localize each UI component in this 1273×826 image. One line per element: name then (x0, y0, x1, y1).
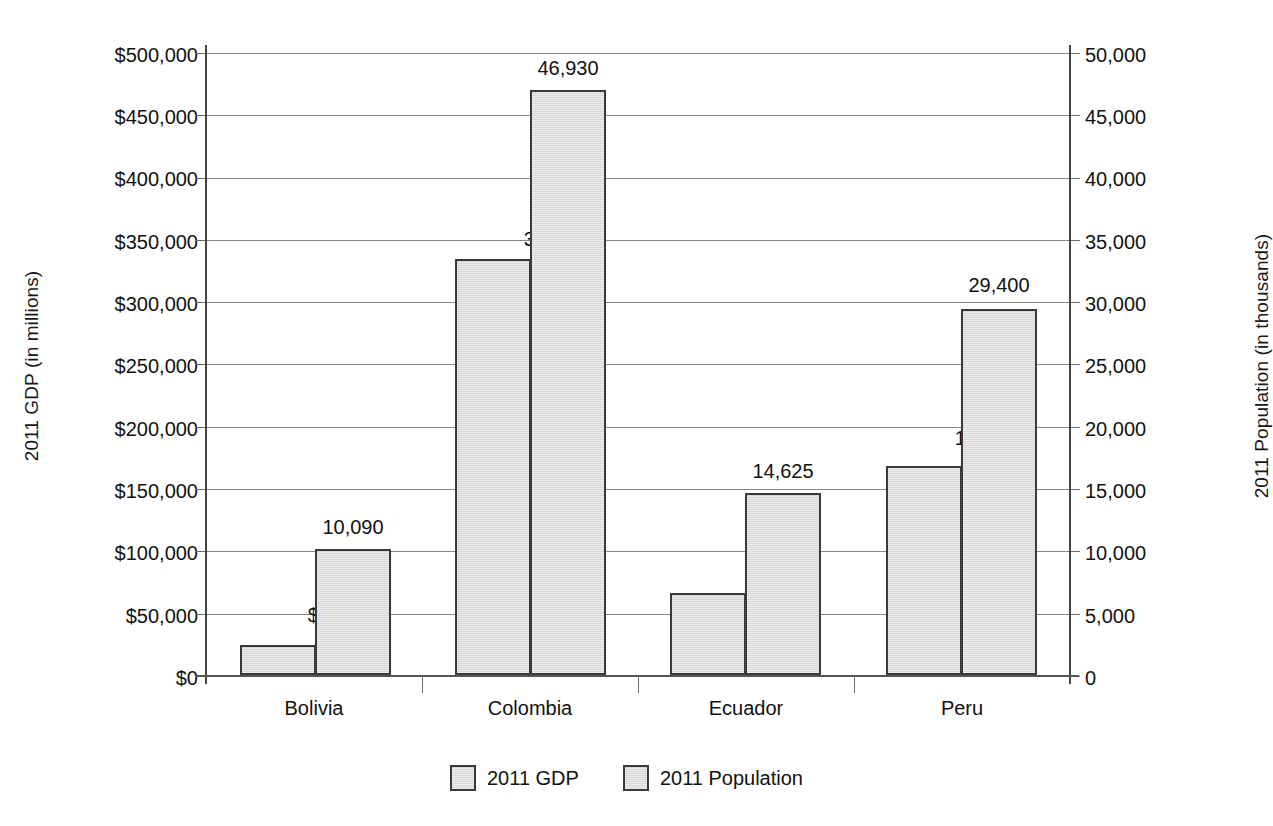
y-axis-left-tickmark (195, 53, 205, 54)
bar-label-population-peru: 29,400 (914, 275, 1084, 295)
y-axis-left-tickmark (195, 115, 205, 116)
legend-item-population[interactable]: 2011 Population (623, 765, 803, 791)
y-axis-left-tick-label: $450,000 (115, 107, 198, 127)
gridline (206, 364, 1070, 365)
y-axis-left-tick-label: $350,000 (115, 232, 198, 252)
bar-label-population-bolivia: 10,090 (268, 517, 438, 537)
gridline (206, 302, 1070, 303)
y-axis-left-tick-label: $500,000 (115, 45, 198, 65)
gridline (206, 53, 1070, 54)
y-axis-left-tick-label: $400,000 (115, 169, 198, 189)
y-axis-left-tick-label: $250,000 (115, 356, 198, 376)
y-axis-left-tickmark (195, 364, 205, 365)
y-axis-right-tick-label: 25,000 (1085, 356, 1146, 376)
x-axis-tickmark (422, 676, 423, 693)
legend-label: 2011 GDP (487, 767, 579, 790)
bar-label-population-ecuador: 14,625 (698, 461, 868, 481)
x-axis-category-label: Bolivia (206, 697, 422, 720)
y-axis-left-tick-label: $100,000 (115, 543, 198, 563)
bar-gdp-bolivia[interactable] (240, 645, 316, 675)
plot-area: $23,950 10,090 333,400 46,930 65,950 14,… (206, 53, 1070, 676)
y-axis-right-tickmark (1070, 614, 1080, 615)
bar-population-colombia[interactable] (530, 90, 606, 675)
y-axis-right-tick-label: 40,000 (1085, 169, 1146, 189)
y-axis-right-tickmark (1070, 178, 1080, 179)
y-axis-left-tick-label: $150,000 (115, 481, 198, 501)
y-axis-right-tickmark (1070, 364, 1080, 365)
y-axis-left-tick-label: $0 (176, 668, 198, 688)
y-axis-left-tickmark (195, 178, 205, 179)
legend-swatch-icon (450, 765, 476, 791)
x-axis-tickmark (854, 676, 855, 693)
legend-label: 2011 Population (660, 767, 803, 790)
legend-swatch-icon (623, 765, 649, 791)
x-axis-category-label: Peru (854, 697, 1070, 720)
bar-population-peru[interactable] (961, 309, 1037, 675)
y-axis-right-tick-label: 10,000 (1085, 543, 1146, 563)
y-axis-right-tickmark (1070, 427, 1080, 428)
y-axis-left-title: 2011 GDP (in millions) (21, 206, 43, 526)
gridline (206, 178, 1070, 179)
x-axis-category-label: Colombia (422, 697, 638, 720)
y-axis-right-tickmark (1070, 489, 1080, 490)
y-axis-right-tick-label: 50,000 (1085, 45, 1146, 65)
y-axis-left-tickmark (195, 240, 205, 241)
bar-gdp-ecuador[interactable] (670, 593, 746, 675)
y-axis-right-tickmark (1070, 115, 1080, 116)
y-axis-right-tick-label: 30,000 (1085, 294, 1146, 314)
y-axis-right-title: 2011 Population (in thousands) (1251, 166, 1273, 566)
y-axis-left-line (205, 45, 207, 684)
y-axis-left-tickmark (195, 489, 205, 490)
gridline (206, 240, 1070, 241)
x-axis-category-label: Ecuador (638, 697, 854, 720)
y-axis-right-tick-label: 45,000 (1085, 107, 1146, 127)
y-axis-left-tick-label: $300,000 (115, 294, 198, 314)
bar-population-ecuador[interactable] (745, 493, 821, 675)
y-axis-left-tickmark (195, 551, 205, 552)
y-axis-right-tickmark (1070, 551, 1080, 552)
y-axis-left-tickmark (195, 302, 205, 303)
y-axis-left-tick-label: $200,000 (115, 419, 198, 439)
y-axis-right-tick-label: 35,000 (1085, 232, 1146, 252)
x-axis-tickmark (638, 676, 639, 693)
y-axis-right-tickmark (1070, 240, 1080, 241)
y-axis-right-tickmark (1070, 53, 1080, 54)
bar-gdp-colombia[interactable] (455, 259, 531, 675)
bar-label-population-colombia: 46,930 (483, 58, 653, 78)
legend: 2011 GDP 2011 Population (0, 765, 1253, 791)
bar-gdp-peru[interactable] (886, 466, 962, 675)
y-axis-right-tickmark (1070, 302, 1080, 303)
y-axis-right-tick-label: 20,000 (1085, 419, 1146, 439)
y-axis-right-line (1069, 45, 1071, 684)
y-axis-right-tick-label: 0 (1085, 668, 1096, 688)
bar-population-bolivia[interactable] (315, 549, 391, 675)
legend-item-gdp[interactable]: 2011 GDP (450, 765, 579, 791)
y-axis-right-tick-label: 5,000 (1085, 606, 1135, 626)
y-axis-left-tickmark (195, 427, 205, 428)
y-axis-right-tick-label: 15,000 (1085, 481, 1146, 501)
gridline (206, 115, 1070, 116)
